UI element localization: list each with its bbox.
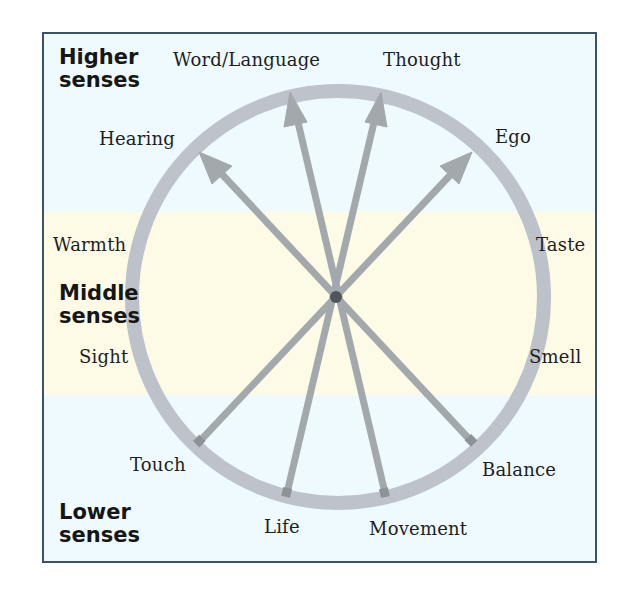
group-middle-line2: senses (59, 305, 140, 328)
group-higher-senses: Higher senses (59, 46, 140, 92)
sense-balance: Balance (482, 459, 556, 480)
sense-smell: Smell (529, 346, 582, 367)
sense-warmth: Warmth (53, 234, 126, 255)
sense-sight: Sight (79, 346, 128, 367)
sense-thought: Thought (383, 49, 461, 70)
sense-touch: Touch (130, 454, 186, 475)
group-lower-senses: Lower senses (59, 501, 140, 547)
sense-taste: Taste (536, 234, 585, 255)
group-lower-line1: Lower (59, 501, 140, 524)
group-higher-line1: Higher (59, 46, 140, 69)
senses-diagram: Higher senses Middle senses Lower senses… (0, 0, 627, 590)
sense-word-language: Word/Language (173, 49, 320, 70)
group-middle-senses: Middle senses (59, 282, 140, 328)
group-middle-line1: Middle (59, 282, 140, 305)
sense-ego: Ego (495, 126, 531, 147)
group-higher-line2: senses (59, 69, 140, 92)
sense-hearing: Hearing (99, 128, 175, 149)
sense-life: Life (264, 516, 300, 537)
sense-movement: Movement (369, 518, 467, 539)
center-hub (330, 291, 342, 303)
group-lower-line2: senses (59, 524, 140, 547)
